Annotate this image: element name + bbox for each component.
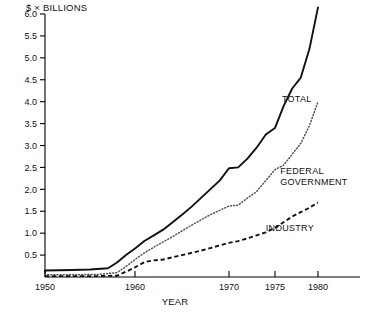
y-tick-label: 1.5 xyxy=(24,206,37,216)
series-label-federal-government-line1: FEDERAL xyxy=(280,166,324,176)
x-tick-label: 1950 xyxy=(35,282,55,292)
y-tick-label: 5.0 xyxy=(24,53,37,63)
y-axis-title: $ × BILLIONS xyxy=(26,2,87,13)
y-tick-label: 2.5 xyxy=(24,163,37,173)
y-tick-label: 2.0 xyxy=(24,185,37,195)
series-labels-group: TOTAL FEDERAL GOVERNMENT INDUSTRY xyxy=(266,94,348,233)
y-axis-group: 0.51.01.52.02.53.03.54.04.55.05.56.0 xyxy=(24,9,45,277)
y-tick-label: 5.5 xyxy=(24,31,37,41)
y-tick-label: 3.0 xyxy=(24,141,37,151)
chart-svg: 0.51.01.52.02.53.03.54.04.55.05.56.0 195… xyxy=(0,0,390,314)
x-tick-label: 1975 xyxy=(265,282,285,292)
x-axis-title: YEAR xyxy=(162,296,189,307)
chart-figure: 0.51.01.52.02.53.03.54.04.55.05.56.0 195… xyxy=(0,0,390,314)
series-label-federal-government-line2: GOVERNMENT xyxy=(280,177,348,187)
series-label-industry: INDUSTRY xyxy=(266,223,314,233)
x-tick-label: 1980 xyxy=(308,282,328,292)
y-tick-label: 0.5 xyxy=(24,250,37,260)
x-tick-label: 1960 xyxy=(125,282,145,292)
series-group xyxy=(45,7,318,276)
y-tick-label: 1.0 xyxy=(24,228,37,238)
series-label-total: TOTAL xyxy=(282,94,312,104)
y-tick-label: 3.5 xyxy=(24,119,37,129)
series-line-federal-government xyxy=(45,102,318,276)
series-line-industry xyxy=(45,202,318,276)
y-axis-ticks: 0.51.01.52.02.53.03.54.04.55.05.56.0 xyxy=(24,9,45,260)
y-tick-label: 4.0 xyxy=(24,97,37,107)
x-axis-group: 19501960197019751980 xyxy=(35,271,360,292)
y-tick-label: 4.5 xyxy=(24,75,37,85)
x-tick-label: 1970 xyxy=(219,282,239,292)
